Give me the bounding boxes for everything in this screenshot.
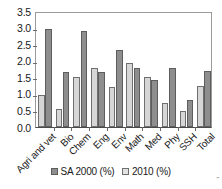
legend-swatch-icon <box>122 168 129 175</box>
legend-entry: SA 2000 (%) <box>51 166 114 177</box>
x-axis-tick-labels: Agri and vetBioChemEngEnvMathMedPhySSHTo… <box>0 0 222 189</box>
bar-chart-figure: 0.00.51.01.52.02.53.03.5 Agri and vetBio… <box>0 0 222 189</box>
legend-entry: 2010 (%) <box>122 166 170 177</box>
legend-swatch-icon <box>51 168 58 175</box>
legend-label: 2010 (%) <box>132 166 171 177</box>
scan-artifact-mark: ˝ <box>216 176 219 185</box>
legend-label: SA 2000 (%) <box>61 166 115 177</box>
chart-legend: SA 2000 (%)2010 (%) <box>0 166 222 177</box>
